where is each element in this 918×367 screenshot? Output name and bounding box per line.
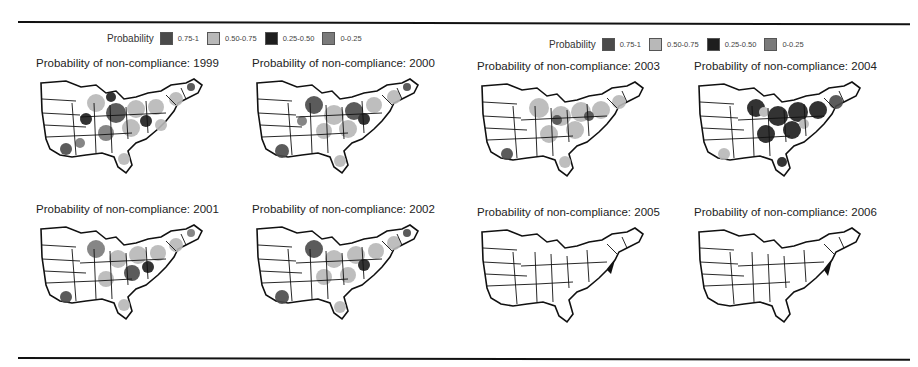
map-panel-2000: Probability of non-compliance: 2000 bbox=[252, 57, 472, 197]
map-panel-2003: Probability of non-compliance: 2003 bbox=[477, 60, 697, 200]
map-chart bbox=[694, 76, 874, 186]
legend-swatch bbox=[207, 32, 220, 45]
panel-title: Probability of non-compliance: 2004 bbox=[694, 60, 877, 72]
legend-right: Probability 0.75-1 0.50-0.75 0.25-0.50 0… bbox=[549, 38, 812, 51]
legend-item: 0-0.25 bbox=[322, 32, 361, 45]
legend-swatch bbox=[322, 32, 335, 45]
map-panel-1999: Probability of non-compliance: 1999 bbox=[36, 57, 256, 197]
legend-swatch bbox=[160, 32, 173, 45]
top-rule bbox=[18, 21, 910, 25]
map-panel-2001: Probability of non-compliance: 2001 bbox=[36, 203, 256, 343]
legend-item: 0.75-1 bbox=[160, 32, 199, 45]
map-chart bbox=[252, 219, 432, 329]
panel-title: Probability of non-compliance: 2005 bbox=[477, 206, 660, 218]
map-panel-2004: Probability of non-compliance: 2004 bbox=[694, 60, 914, 200]
legend-swatch bbox=[707, 38, 720, 51]
legend-item: 0.50-0.75 bbox=[649, 38, 699, 51]
legend-swatch bbox=[265, 32, 278, 45]
panel-title: Probability of non-compliance: 2006 bbox=[694, 206, 877, 218]
map-chart bbox=[252, 73, 432, 183]
panel-title: Probability of non-compliance: 2001 bbox=[36, 203, 219, 215]
map-chart bbox=[36, 73, 216, 183]
legend-item: 0.50-0.75 bbox=[207, 32, 257, 45]
map-chart bbox=[477, 222, 657, 332]
panel-title: Probability of non-compliance: 2000 bbox=[252, 57, 435, 69]
legend-swatch bbox=[602, 38, 615, 51]
map-panel-2002: Probability of non-compliance: 2002 bbox=[252, 203, 472, 343]
map-panel-2006: Probability of non-compliance: 2006 bbox=[694, 206, 914, 346]
map-chart bbox=[477, 76, 657, 186]
legend-swatch bbox=[764, 38, 777, 51]
legend-item: 0.75-1 bbox=[602, 38, 641, 51]
legend-left: Probability 0.75-1 0.50-0.75 0.25-0.50 0… bbox=[107, 32, 370, 45]
map-chart bbox=[36, 219, 216, 329]
panel-title: Probability of non-compliance: 1999 bbox=[36, 57, 219, 69]
legend-item: 0-0.25 bbox=[764, 38, 803, 51]
legend-swatch bbox=[649, 38, 662, 51]
legend-item: 0.25-0.50 bbox=[707, 38, 757, 51]
panel-title: Probability of non-compliance: 2003 bbox=[477, 60, 660, 72]
panel-title: Probability of non-compliance: 2002 bbox=[252, 203, 435, 215]
bottom-rule bbox=[18, 357, 910, 361]
map-panel-2005: Probability of non-compliance: 2005 bbox=[477, 206, 697, 346]
map-chart bbox=[694, 222, 874, 332]
legend-title: Probability bbox=[107, 33, 154, 44]
legend-title: Probability bbox=[549, 39, 596, 50]
legend-item: 0.25-0.50 bbox=[265, 32, 315, 45]
